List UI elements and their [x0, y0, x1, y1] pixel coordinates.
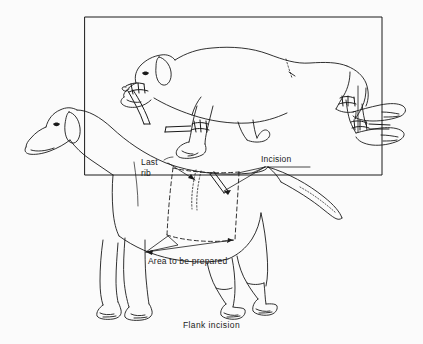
figure-background: [0, 0, 423, 344]
label-incision: Incision: [261, 154, 291, 165]
label-last-rib-line2: rib: [141, 168, 151, 178]
label-area-to-be-prepared: Area to be prepared: [148, 256, 227, 267]
figure-caption: Flank incision: [0, 320, 423, 331]
label-last-rib-line1: Last: [141, 157, 158, 167]
label-last-rib: Lastrib: [141, 157, 158, 179]
flank-incision-figure: [0, 0, 423, 344]
